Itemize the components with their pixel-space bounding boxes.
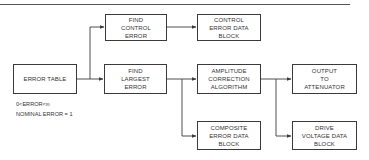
flowchart-diagram: ERROR TABLE FIND CONTROL ERROR FIND LARG… <box>0 0 369 160</box>
node-control-error-data-block: CONTROL ERROR DATA BLOCK <box>197 14 261 41</box>
node-amplitude-correction-algorithm: AMPLITUDE CORRECTION ALGORITHM <box>197 64 261 94</box>
annotation-nominal-error: NOMINAL ERROR = 1 <box>16 111 73 118</box>
node-composite-error-data-block: COMPOSITE ERROR DATA BLOCK <box>197 121 261 150</box>
node-error-table: ERROR TABLE <box>13 64 77 94</box>
edge-find-largest-to-composite <box>182 79 196 136</box>
edge-error-table-to-find-control <box>90 27 104 79</box>
node-find-control-error: FIND CONTROL ERROR <box>105 14 167 41</box>
node-find-largest-error: FIND LARGEST ERROR <box>104 64 167 94</box>
annotation-error-range: 0<ERROR<∞ <box>16 101 50 108</box>
node-output-to-attenuator: OUTPUT TO ATTENUATOR <box>292 64 357 94</box>
node-drive-voltage-data-block: DRIVE VOLTAGE DATA BLOCK <box>292 121 357 150</box>
edge-amplitude-to-drive-voltage <box>276 79 291 136</box>
